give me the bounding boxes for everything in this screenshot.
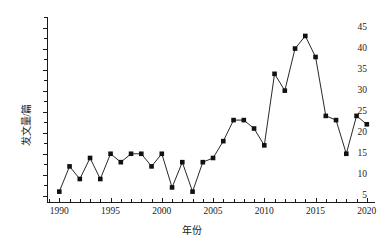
chart-figure: 发文量/篇 51015202530354045 1990199520002005… — [0, 0, 384, 250]
x-tick-label: 2000 — [152, 207, 171, 217]
data-point — [78, 177, 83, 182]
x-tick-label: 1995 — [101, 207, 120, 217]
data-point — [334, 118, 339, 123]
data-point — [344, 151, 349, 156]
x-tick-label: 2005 — [204, 207, 223, 217]
data-point — [262, 143, 267, 148]
data-point — [67, 164, 72, 169]
data-point — [221, 139, 226, 144]
data-series-layer — [47, 17, 375, 203]
data-point — [313, 55, 318, 60]
data-point — [365, 122, 370, 127]
data-point — [272, 72, 277, 77]
series-line — [59, 36, 367, 192]
data-point — [139, 151, 144, 156]
data-point — [190, 189, 195, 194]
data-point — [242, 118, 247, 123]
data-point — [201, 160, 206, 165]
data-point — [252, 126, 257, 131]
data-point — [354, 114, 359, 119]
data-point — [149, 164, 154, 169]
data-point — [211, 156, 216, 161]
x-tick-label: 1990 — [50, 207, 69, 217]
plot-area: 51015202530354045 1990199520002005201020… — [47, 17, 375, 203]
data-point — [180, 160, 185, 165]
data-point — [293, 46, 298, 51]
data-point — [303, 34, 308, 39]
x-tick-label: 2020 — [357, 207, 376, 217]
data-point — [88, 156, 93, 161]
x-axis-label: 年份 — [0, 222, 384, 237]
x-tick-label: 2010 — [255, 207, 274, 217]
data-point — [108, 151, 113, 156]
data-point — [324, 114, 329, 119]
data-point — [170, 185, 175, 190]
data-point — [119, 160, 124, 165]
data-point — [160, 151, 165, 156]
data-point — [98, 177, 103, 182]
x-tick-label: 2015 — [306, 207, 325, 217]
data-point — [283, 88, 288, 93]
data-point — [57, 189, 62, 194]
data-point — [129, 151, 134, 156]
data-point — [231, 118, 236, 123]
